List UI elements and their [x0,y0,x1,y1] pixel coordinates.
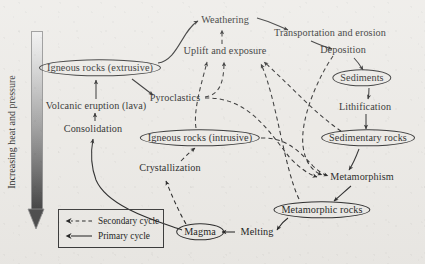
edge-intrusive-metamorphism [261,138,328,176]
edge-pyroclastics-uplift [205,62,224,97]
rock-cycle-figure: Increasing heat and pressure Weathering … [0,0,425,264]
edge-magma-crystallization [166,181,186,224]
solid-line-icon [65,232,93,240]
node-transportation-erosion[interactable]: Transportation and erosion [274,28,386,38]
node-uplift-and-exposure[interactable]: Uplift and exposure [184,46,267,56]
edge-sediments-lithification [368,88,369,99]
edge-metamorphism-metamorphic [334,186,351,201]
edge-sedimentary-uplift [264,62,341,131]
node-pyroclastics[interactable]: Pyroclastics [150,93,200,103]
node-lithification[interactable]: Lithification [339,102,391,112]
legend-label-primary: Primary cycle [98,231,150,241]
edge-deposition-metamorphism [303,56,333,175]
node-weathering[interactable]: Weathering [201,15,249,25]
heat-pressure-gradient-bar [31,31,43,214]
node-volcanic-eruption[interactable]: Volcanic eruption (lava) [46,101,147,111]
legend-label-secondary: Secondary cycle [98,216,159,226]
dashed-line-icon [65,217,93,225]
legend-item-primary-cycle[interactable]: Primary cycle [65,229,150,243]
edge-metamorphic-melting [277,218,288,230]
edge-metamorphic-uplift [261,64,299,199]
node-consolidation[interactable]: Consolidation [64,124,122,134]
heat-pressure-axis-label: Increasing heat and pressure [6,75,17,189]
heat-pressure-arrowhead [27,208,45,230]
edge-extrusive-weathering [158,21,198,63]
node-crystallization[interactable]: Crystallization [139,163,200,173]
edge-crystallization-intrusive [181,148,195,161]
node-metamorphism[interactable]: Metamorphism [330,172,393,182]
node-melting[interactable]: Melting [241,227,274,237]
edge-deposition-sediments [354,58,363,70]
edge-sedimentary-metamorphism [349,149,359,170]
legend-box: Secondary cycle Primary cycle [58,209,164,248]
node-deposition[interactable]: Deposition [320,45,366,55]
legend-item-secondary-cycle[interactable]: Secondary cycle [65,214,159,228]
